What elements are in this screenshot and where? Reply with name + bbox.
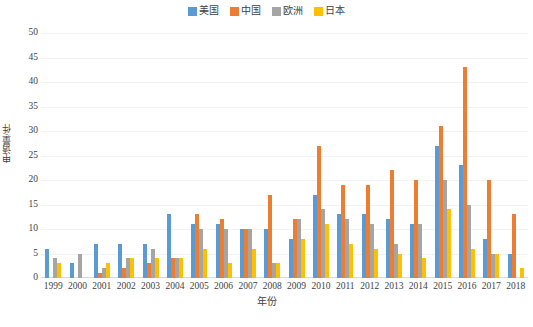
x-axis-tick-label: 2017 bbox=[479, 281, 503, 292]
x-axis-tick-label: 2015 bbox=[431, 281, 455, 292]
y-axis-tick-label: 30 bbox=[29, 126, 39, 136]
y-axis-tick-label: 5 bbox=[33, 249, 38, 259]
x-axis-title: 年份 bbox=[0, 296, 533, 307]
legend-swatch-europe bbox=[272, 7, 281, 16]
legend-item[interactable]: 日本 bbox=[314, 6, 345, 16]
x-axis-tick-label: 2012 bbox=[357, 281, 381, 292]
bar[interactable] bbox=[422, 258, 426, 278]
bar[interactable] bbox=[179, 258, 183, 278]
bar-group bbox=[431, 33, 455, 278]
bar[interactable] bbox=[325, 224, 329, 278]
bar-group bbox=[357, 33, 381, 278]
x-axis-tick-label: 2009 bbox=[284, 281, 308, 292]
bar-group bbox=[65, 33, 89, 278]
y-axis-tick-label: 45 bbox=[29, 53, 39, 63]
bar-group bbox=[284, 33, 308, 278]
y-axis-tick-label: 10 bbox=[29, 224, 39, 234]
bar-group bbox=[211, 33, 235, 278]
legend-swatch-usa bbox=[188, 7, 197, 16]
bar[interactable] bbox=[106, 263, 110, 278]
legend-item-label: 欧洲 bbox=[283, 6, 303, 16]
bar-group bbox=[236, 33, 260, 278]
x-axis-tick-label: 2002 bbox=[114, 281, 138, 292]
legend-item-label: 中国 bbox=[241, 6, 261, 16]
legend-item[interactable]: 中国 bbox=[230, 6, 261, 16]
y-axis-tick-label: 35 bbox=[29, 102, 39, 112]
y-axis-tick-labels: 05101520253035404550 bbox=[14, 0, 38, 327]
x-axis-tick-label: 1999 bbox=[41, 281, 65, 292]
y-axis-tick-label: 0 bbox=[33, 273, 38, 283]
bar[interactable] bbox=[495, 254, 499, 279]
bar-group bbox=[114, 33, 138, 278]
x-axis-tick-label: 2006 bbox=[211, 281, 235, 292]
bar[interactable] bbox=[78, 254, 82, 279]
bar-group bbox=[382, 33, 406, 278]
x-axis-tick-label: 2018 bbox=[504, 281, 528, 292]
bar-group bbox=[406, 33, 430, 278]
legend-item[interactable]: 欧洲 bbox=[272, 6, 303, 16]
bar-group bbox=[333, 33, 357, 278]
y-axis-tick-label: 25 bbox=[29, 151, 39, 161]
bar-group bbox=[90, 33, 114, 278]
bar[interactable] bbox=[512, 214, 516, 278]
bar[interactable] bbox=[520, 268, 524, 278]
bar-group bbox=[41, 33, 65, 278]
x-axis-tick-label: 2013 bbox=[382, 281, 406, 292]
y-axis-tick-label: 15 bbox=[29, 200, 39, 210]
bar[interactable] bbox=[252, 249, 256, 278]
x-axis-tick-label: 2005 bbox=[187, 281, 211, 292]
bar[interactable] bbox=[203, 249, 207, 278]
legend-item-label: 美国 bbox=[199, 6, 219, 16]
x-axis-tick-labels: 1999200020012002200320042005200620072008… bbox=[41, 281, 528, 292]
x-axis-tick-label: 2001 bbox=[90, 281, 114, 292]
bar[interactable] bbox=[301, 239, 305, 278]
bar[interactable] bbox=[228, 263, 232, 278]
x-axis-tick-label: 2011 bbox=[333, 281, 357, 292]
bar-group bbox=[504, 33, 528, 278]
bar[interactable] bbox=[276, 263, 280, 278]
bar[interactable] bbox=[349, 244, 353, 278]
legend-item-label: 日本 bbox=[325, 6, 345, 16]
x-axis-tick-label: 2016 bbox=[455, 281, 479, 292]
bar-group bbox=[309, 33, 333, 278]
bar-group bbox=[479, 33, 503, 278]
bar[interactable] bbox=[374, 249, 378, 278]
y-axis-title: 申请量/件 bbox=[1, 124, 15, 163]
legend-swatch-japan bbox=[314, 7, 323, 16]
x-axis-tick-label: 2010 bbox=[309, 281, 333, 292]
bar-group bbox=[187, 33, 211, 278]
bar[interactable] bbox=[471, 249, 475, 278]
bar[interactable] bbox=[45, 249, 49, 278]
x-axis-tick-label: 2004 bbox=[163, 281, 187, 292]
bar-group bbox=[260, 33, 284, 278]
bar-groups bbox=[41, 33, 528, 278]
x-axis-tick-label: 2003 bbox=[138, 281, 162, 292]
bar[interactable] bbox=[447, 209, 451, 278]
legend-item[interactable]: 美国 bbox=[188, 6, 219, 16]
y-axis-tick-label: 20 bbox=[29, 175, 39, 185]
legend-swatch-china bbox=[230, 7, 239, 16]
y-axis-tick-label: 50 bbox=[29, 28, 39, 38]
x-axis-tick-label: 2014 bbox=[406, 281, 430, 292]
bar-group bbox=[455, 33, 479, 278]
bar[interactable] bbox=[57, 263, 61, 278]
x-axis-tick-label: 2008 bbox=[260, 281, 284, 292]
bar-chart: 美国中国欧洲日本 申请量/件 05101520253035404550 1999… bbox=[0, 0, 533, 327]
bar[interactable] bbox=[155, 258, 159, 278]
y-axis-tick-label: 40 bbox=[29, 77, 39, 87]
x-axis-tick-label: 2007 bbox=[236, 281, 260, 292]
bar[interactable] bbox=[70, 263, 74, 278]
bar[interactable] bbox=[398, 254, 402, 279]
bar-group bbox=[163, 33, 187, 278]
x-axis-tick-label: 2000 bbox=[65, 281, 89, 292]
plot-area bbox=[41, 33, 528, 278]
chart-legend: 美国中国欧洲日本 bbox=[0, 6, 533, 16]
bar[interactable] bbox=[130, 258, 134, 278]
bar-group bbox=[138, 33, 162, 278]
